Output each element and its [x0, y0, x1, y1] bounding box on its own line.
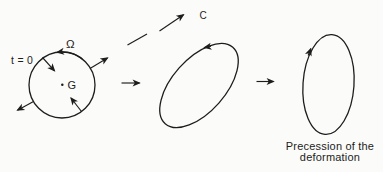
rotation-omega-arrow [57, 52, 82, 59]
initial-circle-group: t = 0 Ω G [11, 38, 108, 118]
tilted-ellipse [145, 30, 252, 142]
reference-point-label: C [200, 10, 208, 21]
time-label: t = 0 [11, 54, 33, 66]
outward-arrow-right [90, 58, 108, 69]
vertical-ellipse [300, 33, 358, 136]
diagram-canvas: t = 0 Ω G C Precession of the deformatio… [0, 0, 383, 172]
center-of-mass-label: G [68, 79, 77, 91]
center-of-mass-dot [61, 84, 64, 87]
dashed-arrow-segment-1 [128, 34, 148, 45]
caption-line-2: deformation [300, 151, 360, 163]
spin-rate-label: Ω [66, 38, 75, 50]
tilted-ellipse-group [145, 30, 252, 142]
inward-arrow-top-left [43, 58, 55, 71]
dashed-arrow-to-c-group: C [128, 10, 208, 46]
caption: Precession of the deformation [286, 140, 374, 163]
dashed-arrow-segment-2 [160, 15, 184, 31]
precession-figure: t = 0 Ω G C Precession of the deformatio… [0, 0, 383, 172]
outward-arrow-bottom-left [18, 102, 34, 111]
tilted-ellipse-rotation-arrow [205, 46, 212, 47]
vertical-ellipse-group [300, 33, 358, 136]
inward-arrow-bottom [71, 98, 82, 112]
